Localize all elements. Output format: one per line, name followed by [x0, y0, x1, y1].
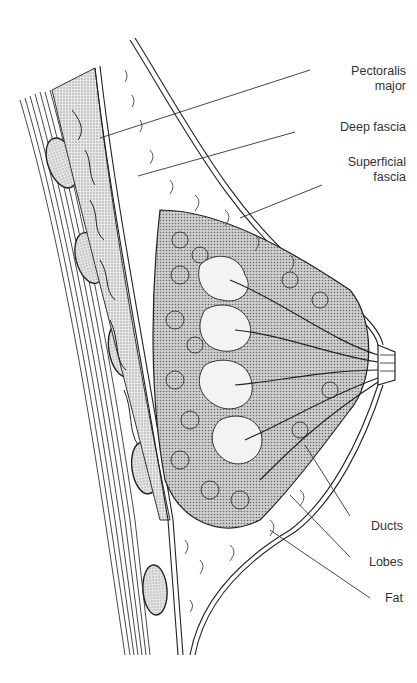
label-superficial-fascia: Superficial fascia: [348, 155, 406, 185]
label-deep-fascia: Deep fascia: [340, 120, 406, 135]
nipple: [378, 345, 395, 385]
label-pectoralis-major: Pectoralis major: [351, 64, 406, 94]
label-text: fascia: [348, 170, 406, 185]
label-text: Lobes: [369, 555, 403, 570]
label-fat: Fat: [385, 591, 403, 606]
label-text: Fat: [385, 591, 403, 606]
diagram-illustration: [0, 0, 417, 683]
label-ducts: Ducts: [371, 519, 403, 534]
label-text: Ducts: [371, 519, 403, 534]
breast-anatomy-diagram: Pectoralis major Deep fascia Superficial…: [0, 0, 417, 683]
label-text: major: [351, 79, 406, 94]
glandular-tissue: [153, 210, 369, 528]
label-text: Deep fascia: [340, 120, 406, 135]
label-lobes: Lobes: [369, 555, 403, 570]
label-text: Superficial: [348, 155, 406, 170]
label-text: Pectoralis: [351, 64, 406, 79]
